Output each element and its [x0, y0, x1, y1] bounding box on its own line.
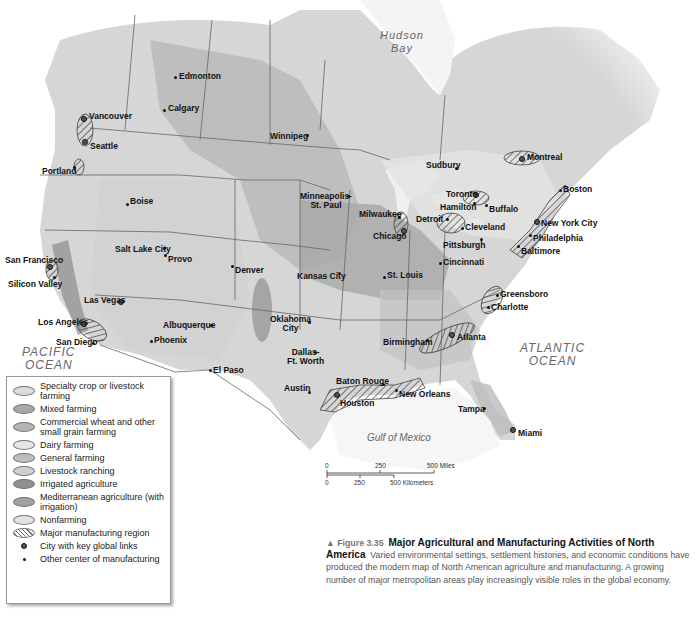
legend-item: Mediterranean agriculture (with irrigati…: [13, 492, 166, 512]
city-label: St. Louis: [387, 271, 423, 280]
legend-swatch-icon: [13, 515, 35, 525]
city-marker-icon: [126, 203, 129, 206]
global-city-marker-icon: [510, 427, 516, 433]
city-label: Chicago: [373, 232, 407, 241]
city-label: Tampa: [458, 405, 485, 414]
atlantic-line2: OCEAN: [520, 355, 585, 368]
legend-label: Major manufacturing region: [40, 528, 150, 538]
city-label: Phoenix: [154, 336, 187, 345]
city-label: Vancouver: [89, 112, 132, 121]
legend-item: Livestock ranching: [13, 466, 166, 476]
city-marker-icon: [517, 245, 520, 248]
global-city-marker-icon: [81, 116, 87, 122]
city-marker-icon: [383, 276, 386, 279]
legend-item: Commercial wheat and other small grain f…: [13, 417, 166, 437]
city-label: Birmingham: [383, 338, 433, 347]
hudson-bay-label: Hudson Bay: [380, 29, 424, 55]
legend-dot-icon: [23, 558, 26, 561]
city-label: Cincinnati: [443, 258, 484, 267]
city-label: New York City: [541, 219, 597, 228]
gulf-of-mexico-label: Gulf of Mexico: [367, 431, 431, 444]
legend-label: General farming: [40, 453, 105, 463]
city-label: Albuquerque: [163, 321, 215, 330]
city-marker-icon: [446, 218, 449, 221]
legend-label: Specialty crop or livestock farming: [40, 381, 166, 401]
city-marker-icon: [559, 189, 562, 192]
city-label: Las Vegas: [84, 296, 126, 305]
city-label: Baton Rouge: [336, 377, 389, 386]
legend-label: Livestock ranching: [40, 466, 115, 476]
city-label: San Francisco: [5, 256, 63, 265]
city-label: Milwaukee: [359, 210, 402, 219]
city-label: Salt Lake City: [115, 245, 171, 254]
hudson-bay-line2: Bay: [380, 42, 424, 55]
legend-swatch-icon: [13, 440, 35, 450]
legend-item: Dairy farming: [13, 440, 166, 450]
city-label: Detroit: [416, 215, 443, 224]
pacific-ocean-label: PACIFIC OCEAN: [22, 346, 75, 372]
city-label: Greensboro: [500, 290, 548, 299]
figure-marker-icon: ▲: [326, 538, 335, 548]
city-label: Dallas-Ft. Worth: [287, 348, 324, 366]
city-label: Seattle: [90, 142, 118, 151]
scale-km-500: 500 Kilometers: [390, 479, 433, 486]
city-label: Sudbury: [426, 161, 460, 170]
city-label: Boston: [563, 185, 592, 194]
city-label: New Orleans: [399, 390, 451, 399]
city-marker-icon: [485, 204, 488, 207]
city-marker-icon: [395, 389, 398, 392]
global-city-marker-icon: [82, 139, 88, 145]
legend-label: Dairy farming: [40, 440, 94, 450]
city-label: Calgary: [168, 104, 199, 113]
city-marker-icon: [439, 262, 442, 265]
scale-km-250: 250: [354, 479, 365, 486]
city-label: Hamilton: [440, 203, 476, 212]
city-label: Pittsburgh: [443, 241, 486, 250]
city-label: Baltimore: [521, 247, 560, 256]
legend-item: City with key global links: [13, 541, 166, 551]
legend-items: Specialty crop or livestock farmingMixed…: [13, 381, 166, 564]
city-label: Los Angeles: [38, 318, 88, 327]
city-marker-icon: [496, 294, 499, 297]
legend-item: Other center of manufacturing: [13, 554, 166, 564]
figure-caption: ▲ Figure 3.35 Major Agricultural and Man…: [326, 537, 694, 586]
city-label: Montreal: [527, 153, 562, 162]
figure-number: Figure 3.35: [337, 538, 383, 548]
legend-dot-icon: [21, 543, 27, 549]
legend-swatch-icon: [13, 386, 35, 396]
legend-item: Specialty crop or livestock farming: [13, 381, 166, 401]
city-label: Charlotte: [491, 303, 528, 312]
city-marker-icon: [231, 265, 234, 268]
global-city-marker-icon: [519, 156, 525, 162]
map-legend: Specialty crop or livestock farmingMixed…: [6, 376, 171, 604]
city-label: Provo: [168, 255, 192, 264]
atlantic-ocean-label: ATLANTIC OCEAN: [520, 342, 585, 368]
city-label: El Paso: [213, 366, 244, 375]
legend-label: Mixed farming: [40, 404, 97, 414]
city-marker-icon: [209, 369, 212, 372]
city-marker-icon: [529, 234, 532, 237]
city-label: Portland: [42, 167, 76, 176]
city-marker-icon: [150, 340, 153, 343]
city-label: Houston: [340, 399, 374, 408]
city-dot-icon: [13, 558, 35, 561]
scale-miles-250: 250: [375, 462, 386, 469]
global-city-marker-icon: [449, 332, 455, 338]
legend-item: Irrigated agriculture: [13, 479, 166, 489]
scale-miles-500: 500 Miles: [427, 462, 455, 469]
city-label: Edmonton: [179, 72, 221, 81]
city-label: Winnipeg: [270, 132, 308, 141]
city-marker-icon: [461, 227, 464, 230]
city-label: Atlanta: [457, 333, 486, 342]
legend-label: Irrigated agriculture: [40, 479, 118, 489]
city-label: Toronto: [446, 190, 477, 199]
city-marker-icon: [164, 254, 167, 257]
legend-item: Major manufacturing region: [13, 528, 166, 538]
legend-swatch-icon: [13, 466, 35, 476]
city-label: Miami: [518, 429, 542, 438]
legend-swatch-icon: [13, 479, 35, 489]
city-label: Buffalo: [489, 205, 518, 214]
city-label: Boise: [130, 197, 153, 206]
city-marker-icon: [487, 306, 490, 309]
city-label: Silicon Valley: [8, 280, 62, 289]
